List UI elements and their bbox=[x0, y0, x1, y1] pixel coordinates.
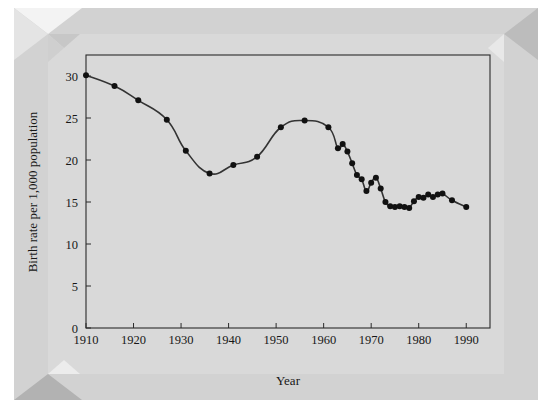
x-tick-label: 1970 bbox=[359, 333, 384, 347]
data-point-marker bbox=[207, 170, 213, 176]
x-tick-label: 1950 bbox=[264, 333, 289, 347]
data-point-marker bbox=[230, 162, 236, 168]
data-point-markers bbox=[83, 72, 469, 211]
y-tick-label: 30 bbox=[66, 70, 79, 84]
data-point-marker bbox=[164, 117, 170, 123]
y-tick-label: 20 bbox=[66, 154, 79, 168]
x-tick-label: 1910 bbox=[74, 333, 99, 347]
data-point-marker bbox=[112, 83, 118, 89]
x-tick-label: 1930 bbox=[169, 333, 194, 347]
data-point-marker bbox=[363, 188, 369, 194]
data-point-marker bbox=[439, 191, 445, 197]
x-axis-ticks: 191019201930194019501960197019801990 bbox=[74, 323, 479, 347]
data-point-marker bbox=[378, 186, 384, 192]
y-tick-label: 25 bbox=[66, 112, 79, 126]
data-point-marker bbox=[349, 160, 355, 166]
data-point-marker bbox=[135, 97, 141, 103]
y-axis-ticks: 051015202530 bbox=[66, 70, 92, 336]
data-point-marker bbox=[449, 197, 455, 203]
data-point-marker bbox=[463, 204, 469, 210]
y-axis-label: Birth rate per 1,000 population bbox=[25, 111, 40, 272]
x-tick-label: 1990 bbox=[454, 333, 479, 347]
data-point-marker bbox=[302, 118, 308, 124]
axes-group bbox=[86, 55, 490, 328]
x-tick-label: 1980 bbox=[406, 333, 431, 347]
data-point-marker bbox=[373, 175, 379, 181]
plot-frame-box bbox=[86, 55, 490, 328]
data-point-marker bbox=[382, 199, 388, 205]
y-tick-label: 15 bbox=[66, 196, 79, 210]
data-point-marker bbox=[183, 148, 189, 154]
x-tick-label: 1940 bbox=[216, 333, 241, 347]
x-tick-label: 1920 bbox=[121, 333, 146, 347]
y-tick-label: 10 bbox=[66, 238, 79, 252]
data-point-marker bbox=[411, 198, 417, 204]
data-point-marker bbox=[278, 124, 284, 130]
data-point-marker bbox=[83, 72, 89, 78]
line-chart: 051015202530 191019201930194019501960197… bbox=[0, 0, 552, 418]
data-point-marker bbox=[354, 172, 360, 178]
data-point-marker bbox=[325, 124, 331, 130]
data-point-marker bbox=[368, 180, 374, 186]
x-tick-label: 1960 bbox=[311, 333, 336, 347]
data-line-birth-rate bbox=[86, 75, 466, 208]
figure-container: 051015202530 191019201930194019501960197… bbox=[0, 0, 552, 418]
data-point-marker bbox=[254, 154, 260, 160]
data-point-marker bbox=[359, 176, 365, 182]
y-tick-label: 5 bbox=[72, 280, 78, 294]
x-axis-label: Year bbox=[276, 373, 301, 388]
data-point-marker bbox=[340, 141, 346, 147]
data-point-marker bbox=[406, 205, 412, 211]
data-point-marker bbox=[335, 145, 341, 151]
data-point-marker bbox=[344, 149, 350, 155]
